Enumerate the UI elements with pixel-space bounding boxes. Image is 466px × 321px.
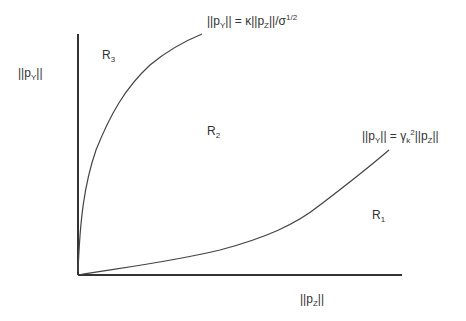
y-axis-label: ||pY|| [18, 66, 43, 82]
r3-letter: R [102, 48, 111, 62]
diagram-plot [0, 0, 466, 321]
upper-curve-equation: ||pY|| = κ||pZ||/σ1/2 [207, 13, 297, 30]
eq2-tail: || [432, 129, 438, 143]
r1-letter: R [372, 208, 381, 222]
eq2-mid: || = γ [380, 129, 406, 143]
region-r3-label: R3 [102, 48, 115, 64]
eq1-rhs: ||/σ [269, 14, 286, 28]
r3-sub: 3 [111, 55, 115, 64]
y-label-suffix: || [36, 66, 42, 80]
x-label-suffix: || [318, 292, 324, 306]
x-label-prefix: ||p [300, 292, 313, 306]
upper-boundary-curve [78, 34, 202, 272]
r2-sub: 2 [216, 131, 220, 140]
eq2-mid-sub: k [406, 136, 410, 145]
region-r1-label: R1 [372, 208, 385, 224]
r1-sub: 1 [381, 215, 385, 224]
region-r2-label: R2 [207, 124, 220, 140]
lower-curve-equation: ||pY|| = γk2||pZ|| [362, 128, 439, 145]
r2-letter: R [207, 124, 216, 138]
eq1-rhs-sup: 1/2 [286, 13, 297, 22]
eq1-lhs: ||p [207, 14, 220, 28]
eq2-rhs: ||p [415, 129, 428, 143]
eq2-lhs: ||p [362, 129, 375, 143]
y-label-prefix: ||p [18, 66, 31, 80]
region-diagram: ||pY|| ||pZ|| R3 R2 R1 ||pY|| = κ||pZ||/… [0, 0, 466, 321]
x-axis-label: ||pZ|| [300, 292, 324, 308]
lower-boundary-curve [78, 150, 389, 275]
eq1-mid: || = κ||p [225, 14, 264, 28]
